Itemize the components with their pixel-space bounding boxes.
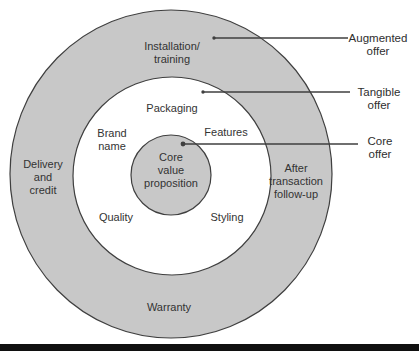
label-styling: Styling bbox=[210, 211, 243, 224]
label-installation-training: Installation/ training bbox=[144, 40, 200, 66]
label-packaging: Packaging bbox=[146, 102, 197, 115]
product-offer-diagram: Installation/ training Delivery and cred… bbox=[0, 0, 419, 351]
label-quality: Quality bbox=[99, 211, 133, 224]
label-core-value-proposition: Core value proposition bbox=[144, 151, 198, 190]
label-after-transaction-follow-up: After transaction follow-up bbox=[269, 162, 323, 201]
label-brand-name: Brand name bbox=[97, 127, 126, 153]
augmented-callout-dot bbox=[212, 36, 215, 39]
label-warranty: Warranty bbox=[147, 301, 191, 314]
label-delivery-and-credit: Delivery and credit bbox=[23, 158, 63, 197]
bottom-bar bbox=[0, 344, 419, 351]
tangible-callout-dot bbox=[201, 90, 204, 93]
callout-core-offer: Core offer bbox=[368, 135, 393, 161]
core-callout-dot bbox=[181, 142, 186, 147]
callout-augmented-offer: Augmented offer bbox=[349, 32, 408, 58]
callout-tangible-offer: Tangible offer bbox=[358, 86, 401, 112]
label-features: Features bbox=[204, 126, 247, 139]
